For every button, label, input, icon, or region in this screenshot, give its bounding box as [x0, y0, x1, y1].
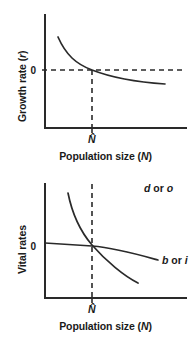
- vital-rates-plot: 0 d or o b or i: [0, 171, 195, 343]
- curve-label-or-lower: or: [168, 254, 184, 266]
- chart-panel-growth-rate: 0 Growth rate (r) N̂ Population size (N): [0, 0, 195, 171]
- curve-label-o: o: [167, 182, 174, 194]
- chart-panel-vital-rates: 0 d or o b or i Vital rates N̂ Populatio…: [0, 171, 195, 342]
- x-axis-title-close-bottom: ): [148, 320, 151, 332]
- curve-label-or-upper: or: [150, 182, 166, 194]
- x-axis-title-text: Population size (: [59, 150, 141, 162]
- x-axis-title-top: Population size (N): [8, 150, 195, 162]
- y-zero-label-bottom: 0: [30, 241, 36, 252]
- curve-label-death-emigration: d or o: [144, 182, 174, 194]
- y-axis-title-text: Growth rate (: [16, 58, 28, 122]
- x-axis-title-close: ): [148, 150, 151, 162]
- curve-label-birth-immigration: b or i: [162, 254, 189, 266]
- y-axis-title-growth-rate: Growth rate (r): [16, 51, 28, 122]
- y-axis-title-vital-rates: Vital rates: [16, 225, 28, 274]
- y-zero-label-top: 0: [30, 65, 36, 76]
- death-emigration-curve: [68, 193, 138, 283]
- y-axis-title-close: ): [16, 51, 28, 54]
- x-axis-title-text-bottom: Population size (: [59, 320, 141, 332]
- growth-rate-plot: 0: [0, 0, 195, 171]
- growth-rate-curve: [58, 37, 165, 84]
- figure-container: 0 Growth rate (r) N̂ Population size (N): [0, 0, 195, 343]
- curve-label-i: i: [185, 254, 189, 266]
- x-axis-title-bottom: Population size (N): [8, 320, 195, 332]
- equilibrium-label-bottom: N̂: [88, 303, 96, 315]
- y-axis-title-symbol: r: [16, 54, 28, 58]
- birth-immigration-curve: [45, 243, 158, 260]
- equilibrium-label-top: N̂: [88, 133, 96, 145]
